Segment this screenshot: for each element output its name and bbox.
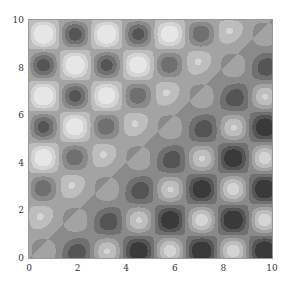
y-tick-label: 10 [10, 16, 24, 25]
x-tick-label: 10 [266, 264, 277, 273]
x-tick-label: 4 [123, 264, 129, 273]
y-tick-label: 4 [14, 158, 24, 167]
y-tick-label: 6 [14, 111, 24, 120]
y-tick-label: 8 [14, 63, 24, 72]
x-tick-label: 2 [75, 264, 81, 273]
y-tick-label: 0 [14, 254, 24, 263]
y-tick-label: 2 [14, 206, 24, 215]
x-tick-label: 0 [26, 264, 32, 273]
contour-plot-area [29, 20, 272, 258]
x-tick-label: 8 [221, 264, 227, 273]
x-tick-label: 6 [172, 264, 178, 273]
